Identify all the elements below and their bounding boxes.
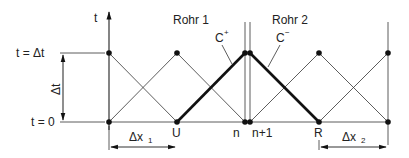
t-axis-label: t [94,11,98,25]
characteristics-grid-diagram: t t = Δt t = 0 Δt [0,0,409,158]
svg-text:C: C [215,31,224,45]
dx1-dimension: Δx 1 [109,126,175,150]
pipe-2-label: Rohr 2 [272,13,308,27]
c-minus-label: C − [268,28,290,67]
node-n1-label: n+1 [252,126,273,140]
time-axis: t [94,11,109,130]
grid-nodes [106,50,391,125]
svg-text:1: 1 [148,136,153,145]
pipe-1-label: Rohr 1 [173,13,209,27]
level-top-label: t = Δt [16,46,45,60]
node-n-label: n [233,126,240,140]
svg-text:Δx: Δx [129,130,143,144]
dt-span-label: Δt [49,83,63,95]
c-plus-label: C + [215,28,232,64]
svg-text:+: + [224,28,229,37]
svg-text:C: C [276,31,285,45]
level-bottom-label: t = 0 [31,115,55,129]
characteristic-lines [109,53,388,122]
svg-text:Δx: Δx [342,130,356,144]
time-levels: t = Δt t = 0 Δt [16,46,105,129]
svg-text:2: 2 [361,136,366,145]
svg-text:−: − [285,28,290,37]
node-U-label: U [172,126,181,140]
dx2-dimension: Δx 2 [319,130,386,150]
node-R-label: R [314,126,323,140]
